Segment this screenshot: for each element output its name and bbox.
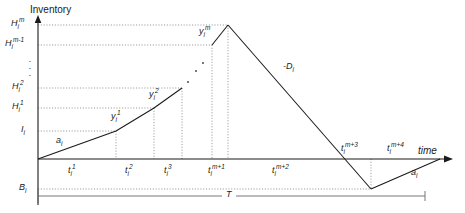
axes [38, 19, 447, 205]
curve-label-yi2: yi2 [149, 90, 159, 99]
x-label-tim1: tim+1 [208, 166, 225, 175]
x-axis-arrowhead [444, 156, 453, 163]
segment-accumulate-1 [38, 131, 116, 159]
y-label-Him: Him [11, 19, 24, 28]
y-label-Hi1: Hi1 [12, 102, 24, 111]
x-label-ti3: ti3 [164, 166, 172, 175]
slope-label-ai-left: ai [56, 136, 62, 145]
y-label-Hi2: Hi2 [12, 82, 24, 91]
diagram-canvas [0, 0, 465, 213]
curve-label-yi1: yi1 [111, 112, 121, 121]
x-label-tim2: tim+2 [272, 166, 289, 175]
y-label-Him-1: Him-1 [5, 39, 24, 48]
curve-label-yim: yim [199, 27, 210, 36]
x-label-tim3: tim+3 [341, 144, 358, 153]
x-label-tim4: tim+4 [387, 144, 404, 153]
ellipsis-dot [187, 81, 189, 83]
vertical-droplines [116, 25, 371, 189]
segment-recovery [371, 159, 440, 189]
y-label-Ii: Ii [21, 125, 25, 134]
ellipsis-dot: . [29, 70, 32, 77]
segment-depletion [228, 25, 371, 189]
segment-accumulate-2 [116, 108, 154, 131]
inventory-diagram-figure: Inventory time Him Him-1 Hi2 Hi1 Ii Bi .… [0, 0, 465, 213]
horizontal-gridlines [38, 25, 371, 189]
y-axis-title: Inventory [30, 5, 71, 15]
diagonal-ellipsis-dots [187, 62, 204, 83]
slope-label-negDi: -Di [283, 62, 294, 71]
inventory-trajectory [38, 25, 440, 189]
x-axis-title: time [418, 146, 437, 156]
y-axis-ellipsis: . . . [29, 56, 32, 77]
slope-label-ai-right: ai [411, 168, 417, 177]
period-span-label-T: T [226, 190, 232, 199]
x-label-ti1: ti1 [68, 166, 76, 175]
ellipsis-dot [202, 62, 204, 64]
y-label-Bi: Bi [19, 183, 26, 192]
ellipsis-dot [195, 70, 197, 72]
x-label-ti2: ti2 [125, 166, 133, 175]
segment-accumulate-final [212, 25, 228, 45]
y-axis-arrowhead [35, 15, 42, 23]
